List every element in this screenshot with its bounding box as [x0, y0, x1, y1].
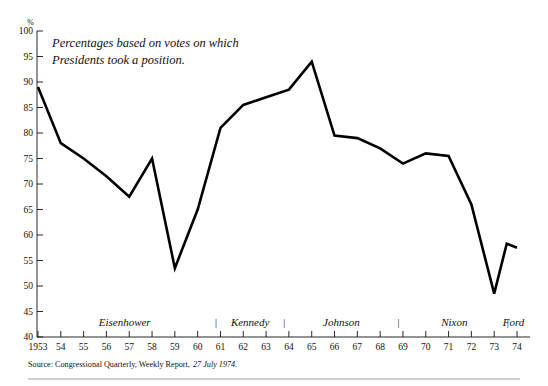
y-tick-label: 60 — [24, 230, 34, 240]
y-tick-label: 95 — [24, 52, 34, 62]
y-tick-group: 100959085807570656055504540 — [19, 26, 43, 342]
x-tick-label: 59 — [170, 342, 180, 352]
x-tick-label: 62 — [239, 342, 249, 352]
x-tick-label: 67 — [353, 342, 363, 352]
x-tick-label: 55 — [79, 342, 89, 352]
y-tick-label: 50 — [24, 281, 34, 291]
era-separator: | — [283, 317, 285, 328]
y-tick-label: 65 — [24, 205, 34, 215]
data-series-line — [38, 62, 517, 294]
era-label-nixon: Nixon — [440, 316, 468, 328]
x-tick-label: 54 — [56, 342, 66, 352]
x-tick-label: 1953 — [29, 342, 48, 352]
x-tick-label: 69 — [398, 342, 408, 352]
x-tick-label: 73 — [489, 342, 499, 352]
era-label-kennedy: Kennedy — [230, 316, 270, 328]
y-tick-label: 70 — [24, 179, 34, 189]
x-tick-label: 74 — [512, 342, 522, 352]
y-tick-label: 80 — [24, 128, 34, 138]
era-separator: | — [215, 317, 217, 328]
x-tick-label: 63 — [261, 342, 271, 352]
y-tick-label: 55 — [24, 256, 34, 266]
x-tick-label: 70 — [421, 342, 431, 352]
source-note: Source: Congressional Quarterly, Weekly … — [28, 360, 237, 369]
x-tick-label: 60 — [193, 342, 203, 352]
era-label-eisenhower: Eisenhower — [98, 316, 152, 328]
annotation-line-1: Percentages based on votes on which — [51, 36, 239, 50]
x-tick-label: 61 — [216, 342, 226, 352]
x-tick-label: 71 — [444, 342, 454, 352]
x-tick-label: 56 — [102, 342, 112, 352]
y-tick-label: 85 — [24, 103, 34, 113]
y-tick-label: 100 — [19, 26, 34, 36]
presidential-support-chart: % 100959085807570656055504540 1953545556… — [0, 0, 548, 386]
era-separator: | — [507, 317, 509, 328]
era-label-ford: Ford — [502, 316, 525, 328]
y-tick-label: 45 — [24, 307, 34, 317]
y-tick-label: 40 — [24, 332, 34, 342]
x-tick-label: 57 — [124, 342, 134, 352]
source-prefix: Source: Congressional Quarterly, Weekly … — [28, 360, 190, 369]
era-label-group: EisenhowerKennedyJohnsonNixonFord — [98, 316, 525, 328]
source-date: 27 July 1974. — [193, 360, 237, 369]
chart-canvas: % 100959085807570656055504540 1953545556… — [0, 0, 548, 386]
y-tick-label: 75 — [24, 154, 34, 164]
x-tick-label: 65 — [307, 342, 317, 352]
annotation-line-2: Presidents took a position. — [51, 53, 185, 67]
era-label-johnson: Johnson — [323, 316, 360, 328]
era-separator: | — [397, 317, 399, 328]
x-tick-label: 66 — [330, 342, 340, 352]
x-tick-label: 64 — [284, 342, 294, 352]
y-tick-label: 90 — [24, 77, 34, 87]
x-tick-label: 68 — [375, 342, 385, 352]
x-tick-label: 58 — [147, 342, 157, 352]
x-tick-label: 72 — [467, 342, 477, 352]
x-tick-group: 1953545556575859606162636465666768697071… — [29, 331, 523, 352]
